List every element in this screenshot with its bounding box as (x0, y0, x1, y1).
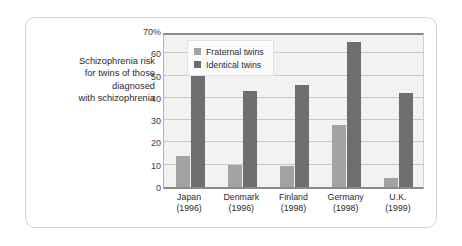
y-tick-label: 10 (151, 161, 161, 171)
bar-fraternal (228, 165, 242, 187)
bar-identical (295, 85, 309, 188)
x-tick-country: Germany (320, 192, 372, 203)
x-tick-label: Finland(1998) (267, 192, 319, 215)
bar-fraternal (280, 166, 294, 187)
x-tick-year: (1998) (320, 203, 372, 214)
y-tick-label: 30 (151, 116, 161, 126)
legend-item-identical: Identical twins (194, 58, 264, 71)
legend-label-fraternal: Fraternal twins (206, 47, 264, 57)
x-tick-year: (1998) (267, 203, 319, 214)
y-tick-label: 0 (156, 183, 161, 193)
legend-item-fraternal: Fraternal twins (194, 45, 264, 58)
plot-area: Fraternal twins Identical twins (163, 33, 424, 189)
x-tick-country: Finland (267, 192, 319, 203)
x-tick-label: U.K.(1999) (372, 192, 424, 215)
legend-swatch-fraternal (194, 48, 201, 55)
y-tick-label: 60 (151, 49, 161, 59)
x-tick-year: (1999) (372, 203, 424, 214)
bar-fraternal (332, 125, 346, 187)
y-tick-label: 50 (151, 72, 161, 82)
x-tick-country: U.K. (372, 192, 424, 203)
chart-figure: Schizophrenia risk for twins of those di… (0, 0, 462, 246)
x-tick-year: (1996) (215, 203, 267, 214)
x-tick-country: Japan (163, 192, 215, 203)
bar-identical (191, 76, 205, 187)
bar-identical (243, 91, 257, 187)
x-tick-label: Japan(1996) (163, 192, 215, 215)
chart-legend: Fraternal twins Identical twins (187, 40, 274, 76)
x-tick-label: Germany(1998) (320, 192, 372, 215)
bar-group (332, 35, 361, 187)
bar-identical (399, 93, 413, 187)
x-axis-category-labels: Japan(1996)Denmark(1996)Finland(1998)Ger… (163, 192, 424, 224)
x-tick-label: Denmark(1996) (215, 192, 267, 215)
bar-group (280, 35, 309, 187)
bar-fraternal (384, 178, 398, 187)
y-axis-tick-labels: 010203040506070% (131, 27, 161, 197)
bar-group (384, 35, 413, 187)
y-tick-label: 40 (151, 94, 161, 104)
bar-identical (347, 42, 361, 187)
bar-fraternal (176, 156, 190, 187)
x-tick-year: (1996) (163, 203, 215, 214)
y-tick-label: 70% (143, 27, 161, 37)
x-tick-country: Denmark (215, 192, 267, 203)
legend-swatch-identical (194, 61, 201, 68)
y-tick-label: 20 (151, 138, 161, 148)
legend-label-identical: Identical twins (206, 60, 261, 70)
